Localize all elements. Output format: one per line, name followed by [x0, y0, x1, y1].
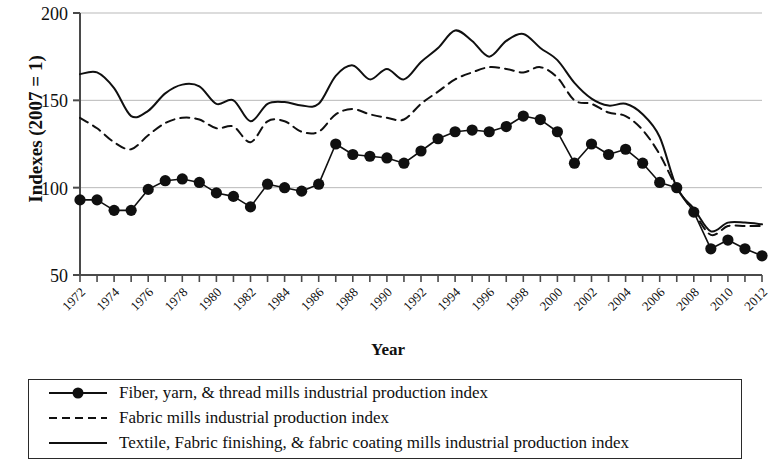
- x-tick-label: 2004: [605, 284, 634, 313]
- x-tick-label: 1976: [127, 284, 156, 313]
- x-tick-label: 1978: [161, 285, 190, 314]
- plot-area-wrapper: Indexes (2007 = 1) 501001502001972197419…: [0, 0, 776, 370]
- data-point: [654, 177, 665, 188]
- legend-label: Textile, Fabric finishing, & fabric coat…: [119, 433, 629, 453]
- data-point: [484, 126, 495, 137]
- x-tick-label: 2008: [673, 285, 702, 314]
- legend-label: Fiber, yarn, & thread mills industrial p…: [119, 383, 488, 403]
- data-point: [228, 191, 239, 202]
- data-point: [296, 186, 307, 197]
- data-point: [126, 205, 137, 216]
- data-point: [432, 133, 443, 144]
- data-point: [586, 138, 597, 149]
- x-tick-label: 1974: [93, 284, 122, 313]
- x-tick-label: 1986: [298, 284, 327, 313]
- data-point: [603, 149, 614, 160]
- data-point: [450, 126, 461, 137]
- data-point: [722, 234, 733, 245]
- data-point: [160, 175, 171, 186]
- x-tick-label: 1992: [400, 285, 429, 314]
- chart-canvas: 5010015020019721974197619781980198219841…: [0, 0, 776, 370]
- x-tick-label: 1982: [230, 285, 259, 314]
- data-point: [330, 138, 341, 149]
- data-point: [467, 124, 478, 135]
- x-tick-label: 2006: [639, 284, 668, 313]
- data-point: [177, 173, 188, 184]
- x-tick-label: 1984: [264, 284, 293, 313]
- y-tick-label: 50: [50, 266, 68, 286]
- y-axis-title: Indexes (2007 = 1): [25, 9, 47, 249]
- legend-sample-solid-line: [45, 433, 111, 453]
- data-point: [381, 152, 392, 163]
- data-point: [637, 158, 648, 169]
- data-point: [620, 144, 631, 155]
- data-point: [143, 184, 154, 195]
- data-point: [518, 110, 529, 121]
- x-tick-label: 2010: [707, 285, 736, 314]
- data-point: [347, 149, 358, 160]
- x-tick-label: 1994: [434, 284, 463, 313]
- x-axis-title: Year: [0, 340, 776, 360]
- x-tick-label: 1988: [332, 285, 361, 314]
- legend-sample-dashed-line: [45, 408, 111, 428]
- data-point: [211, 187, 222, 198]
- x-tick-label: 1996: [468, 284, 497, 313]
- data-point: [398, 158, 409, 169]
- chart-figure: Indexes (2007 = 1) 501001502001972197419…: [0, 0, 776, 465]
- data-point: [279, 182, 290, 193]
- chart-legend: Fiber, yarn, & thread mills industrial p…: [28, 379, 742, 459]
- data-point: [415, 145, 426, 156]
- data-point: [109, 205, 120, 216]
- data-point: [552, 126, 563, 137]
- x-tick-label: 2002: [571, 285, 600, 314]
- series-line-2: [80, 30, 762, 231]
- x-tick-label: 1998: [502, 285, 531, 314]
- data-point: [313, 179, 324, 190]
- data-point: [705, 243, 716, 254]
- data-point: [501, 121, 512, 132]
- legend-sample-line-with-dot-marker: [45, 383, 111, 403]
- data-point: [756, 250, 767, 261]
- data-point: [91, 194, 102, 205]
- legend-item-fabric-mills: Fabric mills industrial production index: [45, 405, 741, 430]
- data-point: [739, 243, 750, 254]
- data-point: [245, 201, 256, 212]
- x-tick-label: 2000: [537, 285, 566, 314]
- x-tick-label: 1972: [59, 285, 88, 314]
- x-tick-label: 1990: [366, 285, 395, 314]
- legend-item-textile-fabric-finishing: Textile, Fabric finishing, & fabric coat…: [45, 430, 741, 455]
- legend-label: Fabric mills industrial production index: [119, 408, 389, 428]
- data-point: [74, 194, 85, 205]
- x-tick-label: 1980: [196, 285, 225, 314]
- legend-item-fiber-yarn-thread: Fiber, yarn, & thread mills industrial p…: [45, 380, 741, 405]
- data-point: [262, 179, 273, 190]
- data-point: [194, 177, 205, 188]
- data-point: [364, 151, 375, 162]
- x-tick-label: 2012: [741, 285, 770, 314]
- data-point: [569, 158, 580, 169]
- data-point: [535, 114, 546, 125]
